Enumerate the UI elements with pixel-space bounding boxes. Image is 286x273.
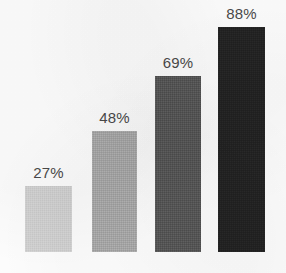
bar-group-2: 48% xyxy=(92,131,137,252)
bar-label-2: 48% xyxy=(99,110,130,125)
bar-label-3: 69% xyxy=(163,55,194,70)
bar-group-4: 88% xyxy=(218,27,265,252)
plot-area: 27% 48% 69% 88% xyxy=(0,0,286,273)
bar-label-1: 27% xyxy=(33,165,64,180)
bar-1 xyxy=(25,186,72,252)
bar-4 xyxy=(218,27,265,252)
bar-chart: 27% 48% 69% 88% xyxy=(0,0,286,273)
bar-group-3: 69% xyxy=(155,76,201,252)
bar-group-1: 27% xyxy=(25,186,72,252)
bar-label-4: 88% xyxy=(226,6,257,21)
bar-3 xyxy=(155,76,201,252)
bar-2 xyxy=(92,131,137,252)
